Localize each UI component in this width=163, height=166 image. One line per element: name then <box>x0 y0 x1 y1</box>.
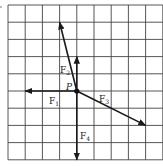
label-f4: F4 <box>80 131 90 142</box>
label-f2: F2 <box>60 65 70 76</box>
force-diagram: P F1 F2 F3 F4 <box>0 0 163 166</box>
corner-mark <box>0 6 2 8</box>
point-p-label: P <box>65 82 73 92</box>
label-f3: F3 <box>99 94 109 105</box>
label-f1: F1 <box>49 96 59 107</box>
point-p-dot <box>74 88 79 93</box>
